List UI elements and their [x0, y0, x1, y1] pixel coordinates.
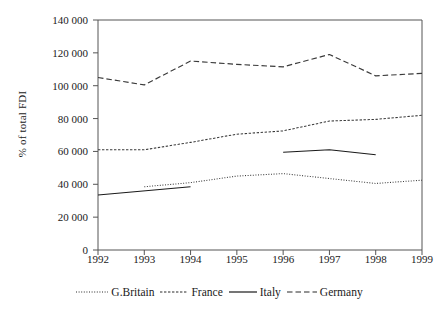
legend-item-france[interactable]: France	[159, 286, 227, 298]
series-line-italy	[98, 187, 191, 195]
x-tick-label: 1997	[318, 253, 340, 265]
x-tick-label: 1998	[365, 253, 387, 265]
series-line-germany	[98, 55, 422, 85]
y-tick-label: 60 000	[58, 145, 88, 157]
y-tick-label: 100 000	[52, 80, 88, 92]
x-tick-label: 1999	[411, 253, 433, 265]
legend-label: G.Britain	[111, 286, 159, 298]
y-tick-label: 20 000	[58, 211, 88, 223]
y-tick-label: 140 000	[52, 14, 88, 26]
x-tick-label: 1993	[133, 253, 155, 265]
x-tick-label: 1994	[180, 253, 202, 265]
legend-label: Italy	[260, 286, 286, 298]
y-tick-label: 120 000	[52, 47, 88, 59]
y-tick-label: 80 000	[58, 113, 88, 125]
y-axis-tick-labels: 020 00040 00060 00080 000100 000120 0001…	[24, 0, 88, 313]
legend-label: Germany	[320, 286, 368, 298]
legend-line-swatch	[75, 287, 109, 297]
legend-line-swatch	[286, 287, 318, 297]
legend-item-italy[interactable]: Italy	[228, 286, 286, 298]
data-series-layer	[98, 55, 422, 195]
fdi-line-chart: % of total FDI 020 00040 00060 00080 000…	[0, 0, 443, 313]
legend-line-swatch	[228, 287, 258, 297]
series-line-italy	[283, 150, 376, 155]
x-tick-label: 1996	[272, 253, 294, 265]
series-line-france	[98, 115, 422, 150]
series-line-g-britain	[144, 174, 422, 187]
y-tick-label: 40 000	[58, 178, 88, 190]
legend-label: France	[191, 286, 227, 298]
x-tick-label: 1992	[87, 253, 109, 265]
y-axis-ticks	[93, 20, 98, 250]
x-tick-label: 1995	[226, 253, 248, 265]
plot-frame	[98, 20, 422, 250]
legend-item-g-britain[interactable]: G.Britain	[75, 286, 159, 298]
chart-legend: G.BritainFranceItalyGermany	[0, 286, 443, 298]
legend-item-germany[interactable]: Germany	[286, 286, 368, 298]
legend-line-swatch	[159, 287, 189, 297]
